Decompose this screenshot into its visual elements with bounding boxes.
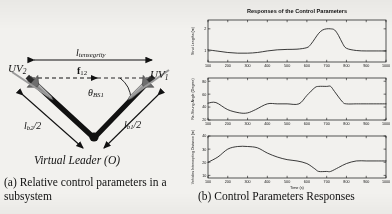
y-tick-label: 40 (202, 105, 206, 109)
y-tick-label: 40 (202, 134, 206, 138)
x-tick-label: 200 (225, 122, 231, 126)
label-lb2-half: lb2/2 (24, 121, 41, 132)
x-tick-label: 800 (343, 64, 349, 68)
label-lb1-half: lb1/2 (124, 120, 141, 131)
x-tick-label: 600 (304, 64, 310, 68)
panel-a-diagram: UV2 UV1 ltensegrity f12 θBS1 lb2/2 lb1/2… (0, 0, 186, 214)
x-tick-label: 200 (225, 64, 231, 68)
y-axis-label: Strut Lengths (m) (191, 27, 195, 55)
x-tick-label: 300 (244, 180, 250, 184)
charts-title: Responses of the Control Parameters (247, 8, 347, 14)
control-parameters-charts: Responses of the Control Parameters10020… (186, 0, 392, 214)
caption-panel-b: (b) Control Parameters Responses (198, 190, 392, 204)
y-tick-label: 1 (204, 49, 206, 53)
chart-2: 100200300400500600700800900100020406080R… (191, 78, 391, 126)
caption-panel-a: (a) Relative control parameters in a sub… (4, 175, 184, 203)
x-tick-label: 500 (284, 64, 290, 68)
x-tick-label: 700 (324, 64, 330, 68)
panel-b-charts: Responses of the Control Parameters10020… (186, 0, 392, 214)
y-axis-label: Vehicles Intercepting Distance (m) (191, 130, 195, 185)
x-tick-label: 1000 (382, 122, 390, 126)
x-tick-label: 400 (264, 180, 270, 184)
x-tick-label: 400 (264, 122, 270, 126)
x-tick-label: 900 (363, 180, 369, 184)
chart-1: 100200300400500600700800900100012Strut L… (191, 20, 391, 68)
figure-container: UV2 UV1 ltensegrity f12 θBS1 lb2/2 lb1/2… (0, 0, 392, 214)
label-f12: f12 (77, 66, 87, 77)
label-uv2: UV2 (8, 63, 26, 75)
x-tick-label: 700 (324, 180, 330, 184)
x-tick-label: 100 (205, 180, 211, 184)
x-tick-label: 400 (264, 64, 270, 68)
series-line (208, 146, 386, 171)
chart-3: 100200300400500600700800900100010203040V… (191, 130, 391, 190)
x-tick-label: 800 (343, 122, 349, 126)
x-tick-label: 1000 (382, 180, 390, 184)
label-l-tensegrity: ltensegrity (76, 48, 106, 59)
label-theta-bs1: θBS1 (88, 88, 104, 99)
x-tick-label: 900 (363, 122, 369, 126)
label-uv1: UV1 (150, 69, 168, 81)
x-tick-label: 800 (343, 180, 349, 184)
x-tick-label: 600 (304, 122, 310, 126)
y-tick-label: 20 (202, 118, 206, 122)
series-line (208, 86, 386, 113)
x-tick-label: 900 (363, 64, 369, 68)
y-tick-label: 10 (202, 174, 206, 178)
x-tick-label: 300 (244, 64, 250, 68)
y-tick-label: 80 (202, 80, 206, 84)
y-tick-label: 2 (204, 27, 206, 31)
x-tick-label: 100 (205, 122, 211, 126)
x-tick-label: 500 (284, 180, 290, 184)
x-tick-label: 600 (304, 180, 310, 184)
x-tick-label: 1000 (382, 64, 390, 68)
x-tick-label: 200 (225, 180, 231, 184)
x-tick-label: 500 (284, 122, 290, 126)
x-tick-label: 100 (205, 64, 211, 68)
y-axis-label: Re-Strung Angle (Degree) (191, 78, 195, 120)
y-tick-label: 30 (202, 148, 206, 152)
uv2-cross-strut (12, 72, 48, 96)
angle-arc (120, 78, 131, 99)
y-tick-label: 20 (202, 161, 206, 165)
x-tick-label: 300 (244, 122, 250, 126)
label-virtual-leader: Virtual Leader (O) (34, 155, 120, 167)
y-tick-label: 60 (202, 93, 206, 97)
x-tick-label: 700 (324, 122, 330, 126)
series-line (208, 29, 386, 54)
